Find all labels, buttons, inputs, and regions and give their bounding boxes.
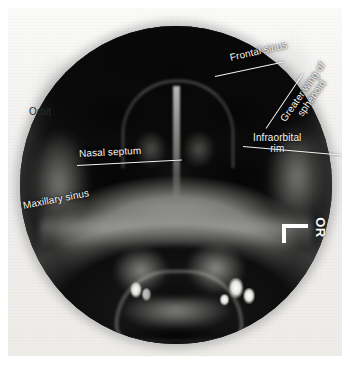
label-maxillary-sinus: Maxillary sinus [22,187,90,211]
label-orbit: Orbit [29,106,51,117]
label-nasal-septum: Nasal septum [79,145,142,159]
label-frontal-sinus: Frontal sinus [229,39,289,63]
leader-nasal-septum [77,160,182,166]
label-infraorbital-line1: Infraorbital [253,132,301,143]
annotation-layer: Frontal sinus Greater wing of sphenoid I… [0,0,350,376]
radiograph-figure: OR Frontal sinus Greater wing of sphenoi… [0,0,350,376]
leader-frontal-sinus [215,61,284,77]
